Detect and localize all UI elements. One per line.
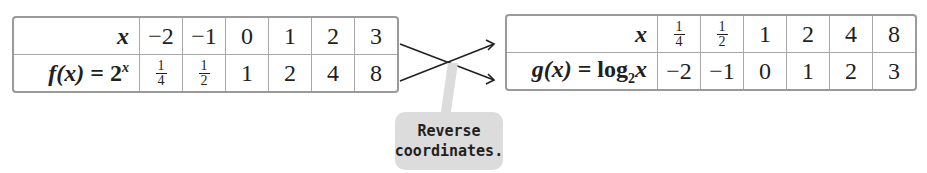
func-var: x xyxy=(635,56,647,82)
numerator: 1 xyxy=(674,20,685,35)
fraction: 14 xyxy=(674,20,685,49)
fraction: 12 xyxy=(717,20,728,49)
callout-line-2: coordinates. xyxy=(395,141,503,161)
row-label-gx: g(x) = log2x xyxy=(507,53,658,90)
table-cell: 14 xyxy=(658,16,701,53)
table-row: g(x) = log2x −2 −1 0 1 2 3 xyxy=(507,53,915,90)
table-cell: 2 xyxy=(787,16,830,53)
table-cell: 1 xyxy=(744,16,787,53)
table-cell: 2 xyxy=(830,53,873,90)
log-base: 2 xyxy=(628,70,635,85)
table-row: x 14 12 1 2 4 8 xyxy=(507,16,915,53)
table-cell: 12 xyxy=(701,16,744,53)
row-label-x: x xyxy=(507,16,658,53)
label-text: x xyxy=(635,21,647,47)
callout-line-1: Reverse xyxy=(417,121,480,141)
table-cell: 3 xyxy=(873,53,916,90)
reverse-coordinates-callout: Reverse coordinates. xyxy=(395,112,503,170)
table-cell: 8 xyxy=(873,16,916,53)
func-eq: = log xyxy=(578,56,628,82)
table-cell: −2 xyxy=(658,53,701,90)
logarithmic-function-table: x 14 12 1 2 4 8 g(x) = log2x −2 −1 0 1 2… xyxy=(505,14,917,91)
func-name: g(x) xyxy=(532,56,572,82)
denominator: 2 xyxy=(719,35,726,49)
numerator: 1 xyxy=(717,20,728,35)
table-cell: −1 xyxy=(701,53,744,90)
table-cell: 4 xyxy=(830,16,873,53)
table-cell: 0 xyxy=(744,53,787,90)
table-cell: 1 xyxy=(787,53,830,90)
denominator: 4 xyxy=(676,35,683,49)
